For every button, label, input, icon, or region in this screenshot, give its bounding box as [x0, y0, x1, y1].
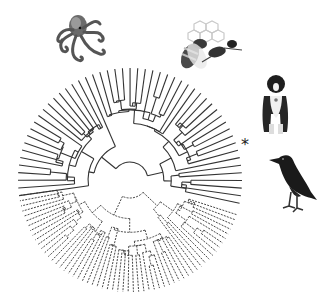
branch [18, 184, 74, 188]
branch [56, 229, 87, 264]
dashed-clade-branches [19, 190, 236, 292]
branch [118, 253, 122, 292]
branch [24, 143, 58, 155]
solid-clade-branches [18, 68, 242, 203]
branch [120, 100, 121, 109]
branch [160, 202, 173, 211]
branch [148, 172, 163, 176]
branch [160, 215, 167, 223]
branch [176, 158, 240, 171]
branch [201, 234, 219, 248]
branch [135, 68, 138, 106]
branch [153, 115, 156, 121]
branch [67, 230, 74, 236]
branch [19, 165, 51, 169]
branch [50, 172, 66, 174]
branch [149, 256, 151, 265]
branch [158, 217, 197, 269]
branch [79, 212, 83, 215]
branch [48, 104, 82, 135]
branch [63, 193, 74, 196]
branch [34, 122, 61, 138]
branch [114, 229, 118, 246]
branch-arc [188, 199, 189, 202]
branch [171, 175, 179, 176]
branch [112, 250, 119, 291]
highlight-asterisk-marker: * [241, 137, 249, 153]
branch [81, 152, 93, 159]
branch [185, 222, 196, 230]
branch [137, 246, 138, 255]
phylogenetic-tree [0, 0, 333, 300]
branch-arc [78, 210, 79, 212]
branch-arc [91, 239, 94, 241]
branch [145, 230, 148, 239]
branch [189, 216, 225, 238]
branch [198, 143, 236, 156]
branch-arc [122, 192, 143, 198]
branch [75, 150, 78, 152]
branch [154, 72, 161, 96]
branch [179, 152, 187, 156]
branch [92, 238, 109, 286]
crow-illustration [267, 152, 319, 214]
branch [27, 136, 61, 151]
branch [56, 162, 63, 164]
branch-arc [69, 201, 72, 207]
branch [176, 213, 187, 221]
branch [87, 237, 106, 284]
branch [184, 145, 193, 150]
branch [115, 69, 119, 102]
branch [139, 255, 144, 291]
branch-arc [64, 206, 65, 209]
branch [53, 98, 84, 132]
branch [24, 201, 69, 216]
branch-arc [168, 204, 178, 218]
branch-arc [107, 237, 110, 238]
branch [114, 196, 123, 215]
branch [159, 84, 188, 131]
branch [185, 192, 239, 203]
branch [99, 124, 101, 128]
branch [163, 141, 169, 147]
branch [179, 116, 222, 146]
branch [178, 204, 183, 206]
branch-arc [59, 193, 60, 196]
branch-arc [107, 115, 111, 116]
branch [30, 129, 58, 143]
branch-arc [176, 206, 180, 213]
branch [41, 226, 70, 248]
branch [136, 255, 139, 292]
branch [145, 244, 147, 252]
branch [60, 141, 64, 144]
branch-arc [110, 244, 113, 245]
branch [180, 206, 192, 212]
branch [132, 255, 133, 292]
branch [95, 221, 102, 231]
branch [38, 219, 74, 244]
octopus-illustration [52, 12, 114, 67]
branch [107, 70, 114, 102]
branch [188, 150, 238, 164]
branch [179, 165, 241, 173]
branch-arc [114, 102, 119, 103]
branch [108, 227, 112, 237]
branch [21, 197, 59, 206]
branch [30, 213, 65, 231]
branch [69, 165, 75, 167]
branch-arc [183, 216, 189, 224]
bee-illustration [172, 18, 247, 76]
branch [100, 72, 112, 115]
branch [18, 173, 50, 175]
branch-arc [133, 103, 141, 104]
branch [193, 211, 231, 229]
branch [122, 68, 124, 100]
branch [197, 228, 203, 232]
branch [148, 113, 150, 120]
branch [151, 97, 156, 113]
branch [101, 232, 103, 235]
branch [168, 222, 205, 263]
branch [101, 157, 115, 169]
branch-arc [62, 161, 63, 166]
branch-arc [181, 222, 185, 226]
